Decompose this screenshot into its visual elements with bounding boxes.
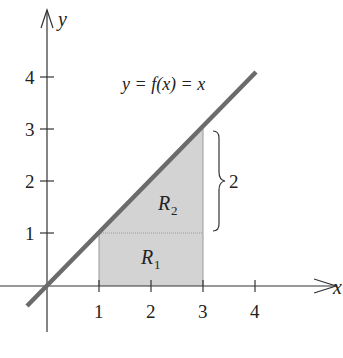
x-tick-label-3: 3 bbox=[198, 301, 208, 322]
x-tick-label-2: 2 bbox=[146, 301, 156, 322]
svg-text:R: R bbox=[157, 192, 170, 214]
svg-text:R: R bbox=[140, 246, 153, 268]
y-tick-label-4: 4 bbox=[25, 67, 35, 88]
y-tick-label-1: 1 bbox=[25, 223, 35, 244]
svg-text:2: 2 bbox=[171, 203, 178, 218]
brace-label: 2 bbox=[229, 171, 239, 192]
svg-text:1: 1 bbox=[154, 257, 161, 272]
function-label: y = f(x) = x bbox=[120, 74, 205, 95]
brace-icon bbox=[213, 131, 225, 231]
x-axis-label: x bbox=[332, 276, 342, 298]
y-tick-label-3: 3 bbox=[25, 119, 35, 140]
area-diagram: 2 y x 1 2 3 4 1 2 3 4 y = f(x) = x R 2 R… bbox=[0, 0, 343, 358]
x-tick-label-4: 4 bbox=[250, 301, 260, 322]
x-tick-label-1: 1 bbox=[94, 301, 104, 322]
y-axis-label: y bbox=[56, 8, 67, 31]
y-tick-label-2: 2 bbox=[25, 171, 35, 192]
